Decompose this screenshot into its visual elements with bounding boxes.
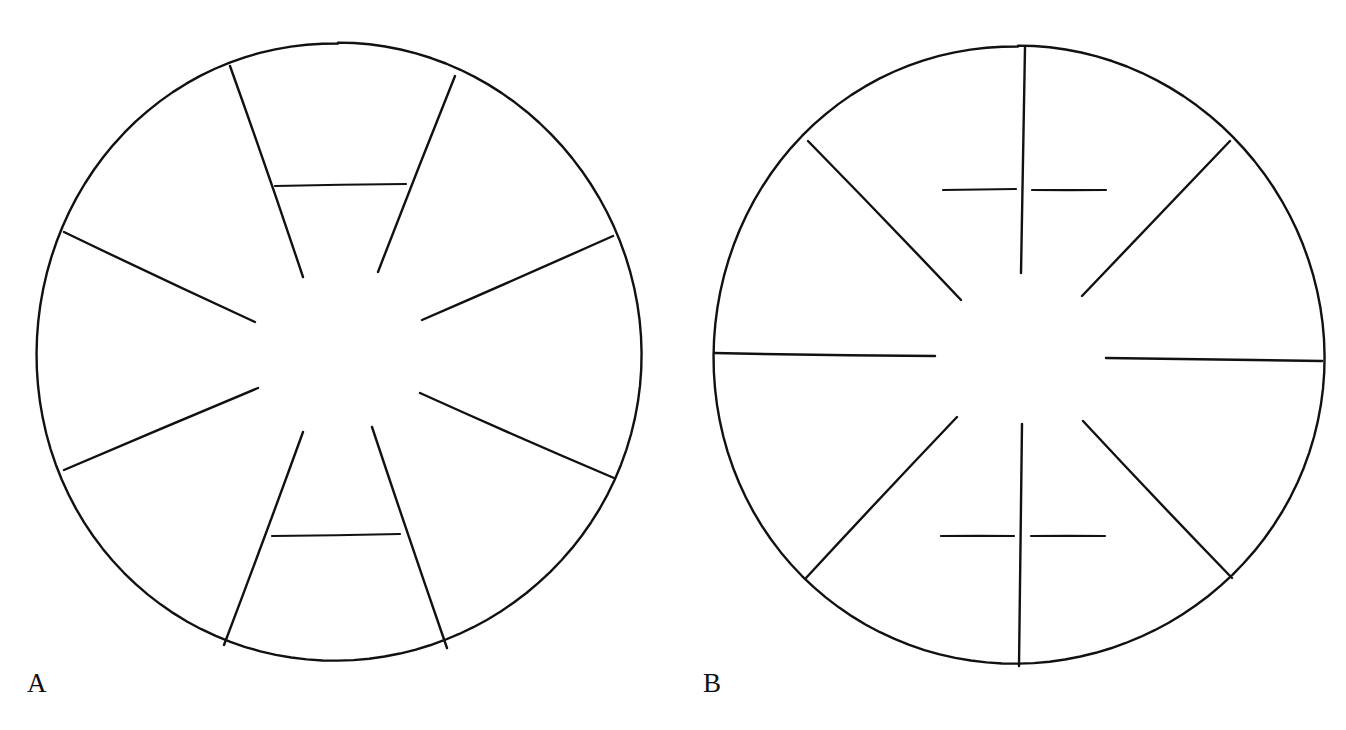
spoke-left-lower-diagonal — [64, 388, 258, 470]
panel-label-b: B — [703, 670, 722, 697]
spoke-right-lower-diagonal — [420, 393, 614, 478]
bridge-top-left — [943, 189, 1016, 190]
spoke-upper-right-steep — [378, 76, 455, 272]
panel-b — [714, 46, 1325, 666]
spoke-right-horizontal — [1106, 358, 1322, 361]
bridge-top — [275, 184, 406, 186]
spoke-vertical-bottom — [1019, 424, 1022, 666]
spoke-upper-left-steep — [230, 66, 303, 277]
spoke-lower-right-steep — [372, 427, 447, 648]
spoke-upper-left-diagonal — [808, 141, 961, 300]
spoke-left-upper-diagonal — [64, 232, 255, 322]
figure-root: A B — [0, 0, 1346, 730]
spoke-right-upper-diagonal — [422, 236, 613, 320]
spoke-lower-left-steep — [224, 432, 303, 645]
figure-canvas — [0, 0, 1346, 730]
bridge-bottom — [272, 534, 400, 536]
diagram-strokes — [37, 43, 1325, 666]
panel-label-a: A — [27, 670, 47, 697]
spoke-left-horizontal — [714, 353, 935, 356]
circle-outline-a — [37, 43, 642, 661]
spoke-vertical-top — [1021, 47, 1025, 273]
panel-a — [37, 43, 642, 661]
spoke-lower-right-diagonal — [1083, 421, 1232, 578]
spoke-upper-right-diagonal — [1082, 141, 1230, 296]
spoke-lower-left-diagonal — [806, 417, 957, 578]
